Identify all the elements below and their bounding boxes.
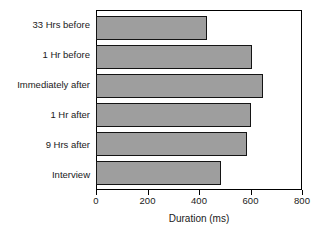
bar-row — [97, 71, 301, 100]
category-label-row: 1 Hr after — [0, 100, 93, 130]
category-label-row: 33 Hrs before — [0, 10, 93, 40]
bar-33-hrs-before — [96, 16, 207, 40]
bar-row — [97, 129, 301, 158]
category-label-row: Interview — [0, 160, 93, 190]
category-label: Immediately after — [17, 80, 90, 90]
plot-area — [96, 10, 302, 190]
category-label: 33 Hrs before — [32, 20, 90, 30]
bar-row — [97, 42, 301, 71]
bar-chart: 33 Hrs before 1 Hr before Immediately af… — [0, 0, 320, 239]
bar-immediately-after — [96, 74, 263, 98]
value-axis: 0200400600800 — [96, 190, 302, 196]
x-axis-tick-label: 600 — [243, 196, 259, 206]
bar-row — [97, 13, 301, 42]
bar-1-hr-before — [96, 45, 252, 69]
bar-row — [97, 158, 301, 187]
x-axis-tick-label: 400 — [191, 196, 207, 206]
bar-row — [97, 100, 301, 129]
bar-1-hr-after — [96, 103, 251, 127]
bar-interview — [96, 161, 221, 185]
category-label: 1 Hr before — [42, 50, 90, 60]
axis-title: Duration (ms) — [96, 214, 302, 224]
category-label: Interview — [52, 170, 90, 180]
bar-9-hrs-after — [96, 132, 247, 156]
category-label-row: 1 Hr before — [0, 40, 93, 70]
category-label: 1 Hr after — [50, 110, 90, 120]
x-axis-tick-label: 200 — [140, 196, 156, 206]
category-label-row: Immediately after — [0, 70, 93, 100]
category-axis-labels: 33 Hrs before 1 Hr before Immediately af… — [0, 10, 93, 190]
x-axis-tick-label: 800 — [294, 196, 310, 206]
category-label-row: 9 Hrs after — [0, 130, 93, 160]
bars-container — [97, 11, 301, 189]
x-axis-tick-label: 0 — [93, 196, 98, 206]
category-label: 9 Hrs after — [46, 140, 90, 150]
